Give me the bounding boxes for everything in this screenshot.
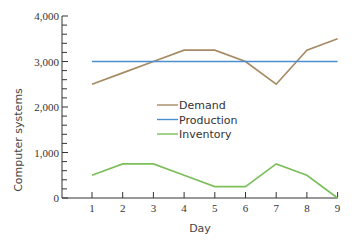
x-tick-label: 9: [335, 202, 341, 214]
y-tick-label: 1,000: [34, 147, 59, 159]
y-tick-label: 3,000: [34, 56, 59, 68]
x-tick-label: 5: [212, 202, 218, 214]
y-axis-title: Computer systems: [12, 88, 25, 192]
y-tick-label: 4,000: [34, 10, 59, 22]
legend-label-inventory: Inventory: [179, 128, 232, 141]
legend-label-production: Production: [179, 114, 238, 127]
legend-label-demand: Demand: [179, 99, 226, 112]
x-tick-label: 8: [304, 202, 310, 214]
x-tick-label: 4: [181, 202, 187, 214]
line-chart: 01,0002,0003,0004,000123456789 DemandPro…: [0, 0, 362, 243]
axes: 01,0002,0003,0004,000123456789: [34, 10, 341, 214]
x-tick-label: 6: [243, 202, 249, 214]
x-tick-label: 3: [151, 202, 157, 214]
x-tick-label: 2: [120, 202, 126, 214]
y-tick-label: 2,000: [34, 101, 59, 113]
x-axis-title: Day: [189, 222, 211, 235]
legend: DemandProductionInventory: [157, 99, 238, 141]
y-tick-label: 0: [54, 192, 60, 204]
x-tick-label: 1: [89, 202, 95, 214]
x-tick-label: 7: [273, 202, 279, 214]
